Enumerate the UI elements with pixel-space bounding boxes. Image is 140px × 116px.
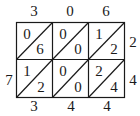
left-product-digit: 7 <box>2 73 16 88</box>
cell-ones-digit: 4 <box>108 80 120 95</box>
top-digit: 6 <box>99 4 113 19</box>
cell-tens-digit: 2 <box>93 64 105 79</box>
bottom-product-digit: 3 <box>27 99 41 114</box>
bottom-product-digit: 4 <box>100 99 114 114</box>
top-digit: 0 <box>63 4 77 19</box>
right-digit: 4 <box>126 73 140 88</box>
cell-tens-digit: 1 <box>21 64 33 79</box>
cell-tens-digit: 0 <box>21 27 33 42</box>
cell-ones-digit: 2 <box>108 42 120 57</box>
bottom-product-digit: 4 <box>64 99 78 114</box>
cell-tens-digit: 0 <box>57 27 69 42</box>
right-digit: 2 <box>126 35 140 50</box>
cell-ones-digit: 0 <box>72 80 84 95</box>
cell-tens-digit: 0 <box>57 64 69 79</box>
top-digit: 3 <box>27 4 41 19</box>
cell-ones-digit: 6 <box>34 42 46 57</box>
cell-ones-digit: 2 <box>35 80 47 95</box>
cell-tens-digit: 1 <box>93 27 105 42</box>
cell-ones-digit: 0 <box>72 42 84 57</box>
